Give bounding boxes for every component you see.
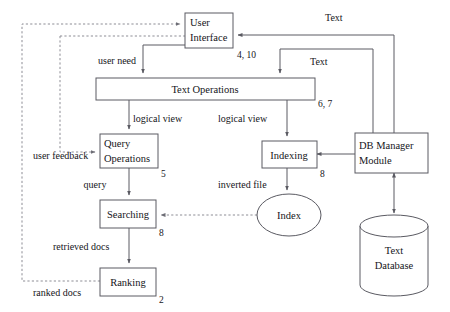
label-ranked-docs: ranked docs [33,287,81,298]
node-user-interface[interactable]: User Interface [185,13,233,48]
node-searching[interactable]: Searching [100,200,156,228]
user-interface-label-line2: Interface [190,32,228,43]
label-logical-view-left: logical view [133,113,183,124]
step-searching: 8 [159,228,164,238]
query-operations-label-line1: Query [104,138,131,149]
step-indexing: 8 [320,169,325,179]
diagram-canvas: User Interface 4, 10 Text Operations 6, … [0,0,450,312]
node-text-operations[interactable]: Text Operations [96,78,315,100]
ranking-label: Ranking [110,277,146,288]
db-manager-box[interactable] [355,133,428,173]
node-text-database[interactable]: Text Database [360,215,428,296]
ir-system-diagram: User Interface 4, 10 Text Operations 6, … [0,0,450,312]
text-operations-label: Text Operations [171,84,238,95]
index-label: Index [277,210,302,221]
label-retrieved-docs: retrieved docs [53,241,109,252]
edge-user-need [143,45,185,73]
label-text-mid: Text [310,56,328,67]
step-user-interface: 4, 10 [237,50,256,60]
node-index[interactable]: Index [257,194,321,236]
step-text-operations: 6, 7 [318,99,333,109]
label-user-need: user need [98,55,136,66]
step-query-operations: 5 [161,169,166,179]
label-user-feedback: user feedback [33,150,88,161]
text-database-label-line2: Database [375,260,414,271]
edge-user-feedback [60,36,95,152]
label-text-top: Text [325,12,343,23]
db-manager-label-line1: DB Manager [359,140,414,151]
node-ranking[interactable]: Ranking [100,268,156,296]
node-indexing[interactable]: Indexing [262,141,317,168]
step-ranking: 2 [159,295,164,305]
user-interface-label-line1: User [190,17,210,28]
text-database-top[interactable] [360,215,428,237]
text-database-label-line1: Text [385,245,404,256]
label-inverted-file: inverted file [218,179,267,190]
label-logical-view-right: logical view [218,113,268,124]
indexing-label: Indexing [270,150,308,161]
searching-label: Searching [107,209,150,220]
label-query: query [84,179,107,190]
query-operations-label-line2: Operations [104,153,150,164]
node-query-operations[interactable]: Query Operations [100,134,158,168]
db-manager-label-line2: Module [359,155,392,166]
node-db-manager-module[interactable]: DB Manager Module [355,133,428,173]
